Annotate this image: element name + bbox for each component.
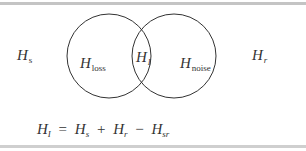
equation: HI = Hs + Hr − Hsr bbox=[37, 121, 169, 139]
label-hr: Hr bbox=[252, 47, 267, 65]
label-hloss: Hloss bbox=[80, 55, 106, 73]
label-hi-intersection: HI bbox=[136, 49, 151, 67]
bottom-rule bbox=[0, 145, 306, 148]
label-hs: Hs bbox=[17, 47, 32, 65]
label-hnoise: Hnoise bbox=[180, 55, 211, 73]
